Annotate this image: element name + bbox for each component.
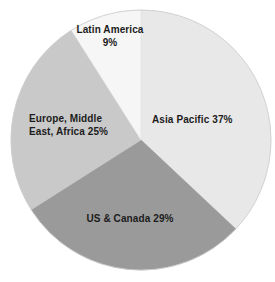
pie-chart: Latin America9% Asia Pacific 37% Europe,… — [0, 0, 275, 282]
pie-chart-svg — [0, 0, 275, 282]
